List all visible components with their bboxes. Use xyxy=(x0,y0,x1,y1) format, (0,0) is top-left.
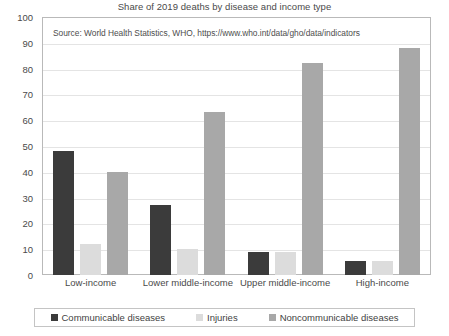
legend-label: Communicable diseases xyxy=(62,312,166,323)
legend-swatch-icon xyxy=(51,314,58,321)
bar xyxy=(80,244,101,275)
bar xyxy=(53,151,74,275)
legend-swatch-icon xyxy=(269,314,276,321)
bar xyxy=(275,252,296,275)
y-axis-tick-label: 80 xyxy=(22,63,33,74)
bar xyxy=(302,63,323,275)
x-axis-tick-label: Lower middle-income xyxy=(143,277,233,288)
y-axis-tick-label: 20 xyxy=(22,218,33,229)
chart-title: Share of 2019 deaths by disease and inco… xyxy=(0,1,449,12)
y-axis-tick-label: 50 xyxy=(22,141,33,152)
x-axis-tick-label: Upper middle-income xyxy=(240,277,330,288)
y-axis-tick-label: 30 xyxy=(22,192,33,203)
bar xyxy=(248,252,269,275)
bar-group xyxy=(345,17,420,275)
bar xyxy=(177,249,198,275)
bar xyxy=(150,205,171,275)
y-axis-tick-label: 70 xyxy=(22,89,33,100)
y-axis-tick-label: 10 xyxy=(22,244,33,255)
bar xyxy=(399,48,420,275)
legend-label: Noncommunicable diseases xyxy=(280,312,399,323)
x-axis-tick-label: Low-income xyxy=(65,277,116,288)
bar xyxy=(107,172,128,275)
bar xyxy=(204,112,225,275)
legend-label: Injuries xyxy=(207,312,238,323)
y-axis: 0102030405060708090100 xyxy=(0,17,38,275)
legend-item[interactable]: Injuries xyxy=(196,312,238,323)
y-axis-tick-label: 60 xyxy=(22,115,33,126)
y-axis-tick-label: 0 xyxy=(28,270,33,281)
bar xyxy=(345,261,366,275)
bars-layer xyxy=(42,17,431,275)
bar-group xyxy=(150,17,225,275)
x-axis-tick-label: High-income xyxy=(356,277,409,288)
legend-item[interactable]: Noncommunicable diseases xyxy=(269,312,399,323)
bar xyxy=(372,261,393,275)
chart-legend: Communicable diseasesInjuriesNoncommunic… xyxy=(34,308,415,327)
y-axis-tick-label: 90 xyxy=(22,37,33,48)
bar-chart: Share of 2019 deaths by disease and inco… xyxy=(0,0,449,336)
bar-group xyxy=(248,17,323,275)
y-axis-tick-label: 100 xyxy=(17,12,33,23)
y-axis-tick-label: 40 xyxy=(22,166,33,177)
bar-group xyxy=(53,17,128,275)
legend-item[interactable]: Communicable diseases xyxy=(51,312,166,323)
legend-swatch-icon xyxy=(196,314,203,321)
x-axis: Low-incomeLower middle-incomeUpper middl… xyxy=(42,277,431,295)
